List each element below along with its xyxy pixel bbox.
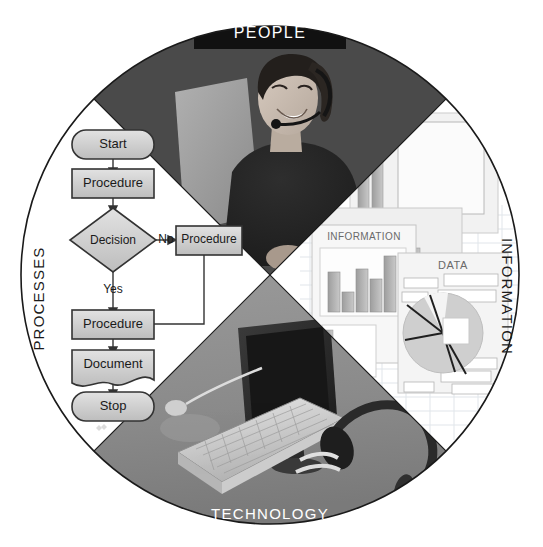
quadrant-label-processes: PROCESSES [30,219,47,379]
mouse-icon [165,400,187,416]
flow-label-decision-text: Decision [90,233,136,247]
flow-label-document: Document [72,356,154,371]
technology-label-text: TECHNOLOGY [211,505,329,522]
flow-edge-label-yes: Yes [92,282,134,296]
flow-edge-label-yes-text: Yes [103,282,123,296]
quadrant-label-people: PEOPLE [194,24,346,42]
processes-label-text: PROCESSES [30,246,47,350]
people-label-text: PEOPLE [234,24,306,41]
flow-edge-label-no-text: No [158,232,173,246]
flow-label-start-text: Start [99,136,126,151]
flow-label-procedure-2-text: Procedure [83,316,143,331]
flow-label-procedure-1-text: Procedure [83,175,143,190]
report-data-title: DATA [400,259,506,271]
flow-label-procedure-no: Procedure [176,232,242,246]
report-information-title-text: INFORMATION [327,231,401,242]
quadrant-label-technology: TECHNOLOGY [180,505,360,522]
wheel-diagram [0,0,543,547]
flow-label-stop-text: Stop [100,398,127,413]
flow-label-stop: Stop [72,398,154,413]
data-pie-chart [403,293,483,374]
flow-label-procedure-no-text: Procedure [181,232,236,246]
flow-label-decision: Decision [72,233,154,247]
information-label-text: INFORMATION [499,238,516,355]
quadrant-label-information: INFORMATION [499,202,516,392]
report-information-title: INFORMATION [314,231,414,242]
flow-label-procedure-1: Procedure [72,175,154,190]
flow-label-procedure-2: Procedure [72,316,154,331]
report-data [398,253,508,394]
flow-label-document-text: Document [83,356,142,371]
diagram-canvas: PEOPLE TECHNOLOGY PROCESSES INFORMATION … [0,0,543,547]
flow-edge-label-no: No [154,232,178,246]
report-data-title-text: DATA [438,259,468,271]
flow-label-start: Start [72,136,154,151]
